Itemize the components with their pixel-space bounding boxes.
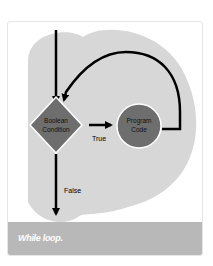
program-label-line1: Program <box>127 117 152 125</box>
condition-label-line2: Condition <box>42 126 70 133</box>
caption-bar: While loop. <box>8 222 203 256</box>
program-label-line2: Code <box>131 126 147 133</box>
condition-label-line1: Boolean <box>44 117 68 124</box>
while-loop-diagram: True False Boolean Condition Program Cod… <box>8 22 203 222</box>
true-label: True <box>92 135 106 142</box>
figure-caption: While loop. <box>18 233 63 243</box>
figure-card: True False Boolean Condition Program Cod… <box>7 21 203 256</box>
false-label: False <box>64 187 81 194</box>
